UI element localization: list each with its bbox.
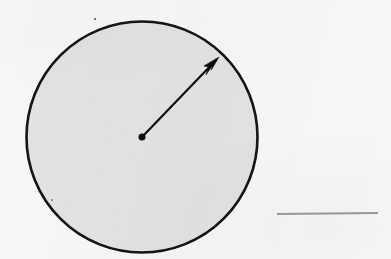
geometry-figure — [0, 0, 391, 259]
circle-center-dot — [139, 134, 146, 141]
figure-canvas — [0, 0, 391, 259]
horizontal-rule-line — [277, 213, 378, 214]
scan-speck — [51, 199, 52, 200]
